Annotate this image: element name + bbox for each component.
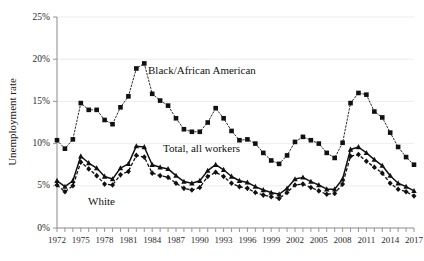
data-point bbox=[213, 162, 218, 167]
data-point bbox=[404, 189, 409, 195]
data-point bbox=[126, 94, 131, 99]
data-point bbox=[78, 153, 83, 158]
data-point bbox=[412, 162, 417, 167]
data-point bbox=[372, 109, 377, 114]
x-axis-tick-label: 2011 bbox=[358, 235, 376, 245]
data-point bbox=[388, 180, 393, 186]
data-point bbox=[63, 146, 68, 151]
data-point bbox=[317, 141, 322, 146]
data-point bbox=[142, 61, 147, 66]
y-axis-tick-label: 0% bbox=[37, 223, 50, 233]
y-axis-ticks bbox=[53, 17, 57, 228]
data-point bbox=[301, 135, 306, 140]
data-point bbox=[396, 186, 401, 192]
data-point bbox=[221, 116, 226, 121]
y-axis-tick-label: 20% bbox=[33, 54, 51, 64]
data-point bbox=[174, 116, 179, 121]
data-point bbox=[324, 151, 329, 156]
data-point bbox=[213, 106, 218, 111]
x-axis-tick-label: 1996 bbox=[238, 235, 257, 245]
x-axis-tick-label: 2005 bbox=[310, 235, 329, 245]
data-point bbox=[245, 137, 250, 142]
data-point bbox=[261, 151, 266, 156]
x-axis-tick-label: 1999 bbox=[262, 235, 281, 245]
data-point bbox=[189, 187, 194, 193]
data-point bbox=[86, 108, 91, 113]
data-point bbox=[150, 170, 155, 176]
data-point bbox=[253, 141, 258, 146]
data-point bbox=[182, 127, 187, 132]
x-axis-tick-label: 2017 bbox=[405, 235, 424, 245]
data-point bbox=[94, 173, 99, 179]
data-point bbox=[285, 153, 290, 158]
data-point bbox=[269, 194, 274, 200]
data-point bbox=[332, 156, 337, 161]
data-point bbox=[380, 115, 385, 120]
data-point bbox=[412, 193, 417, 199]
data-point bbox=[213, 170, 218, 176]
gridlines bbox=[57, 17, 414, 186]
data-point bbox=[118, 105, 123, 110]
x-axis-tick-label: 1984 bbox=[143, 235, 162, 245]
data-point bbox=[229, 129, 234, 134]
data-point bbox=[71, 137, 76, 142]
data-point bbox=[388, 130, 393, 135]
x-axis-tick-label: 1981 bbox=[119, 235, 137, 245]
data-point bbox=[356, 91, 361, 96]
data-point bbox=[261, 192, 266, 198]
data-point bbox=[237, 184, 242, 190]
series-line bbox=[57, 155, 414, 199]
x-axis-tick-label: 1993 bbox=[215, 235, 234, 245]
data-point bbox=[316, 188, 321, 194]
series-white bbox=[55, 152, 417, 201]
y-axis-tick-label: 5% bbox=[37, 180, 50, 190]
data-point bbox=[309, 138, 314, 143]
y-axis-tick-label: 10% bbox=[33, 138, 51, 148]
data-point bbox=[134, 66, 139, 71]
data-point bbox=[245, 186, 250, 192]
x-axis-tick-label: 1978 bbox=[96, 235, 115, 245]
data-point bbox=[253, 190, 258, 196]
series-annotation-label: White bbox=[88, 195, 115, 207]
data-point bbox=[181, 186, 186, 192]
data-point bbox=[158, 98, 163, 103]
data-point bbox=[102, 118, 107, 123]
y-axis-tick-labels: 0%5%10%15%20%25% bbox=[33, 12, 51, 233]
data-point bbox=[126, 161, 131, 166]
data-point bbox=[205, 174, 210, 180]
data-point bbox=[340, 176, 345, 181]
data-point bbox=[55, 138, 60, 143]
data-point bbox=[86, 166, 91, 172]
y-axis-tick-label: 15% bbox=[33, 96, 51, 106]
data-point bbox=[110, 122, 115, 127]
data-point bbox=[332, 191, 337, 197]
series-layer bbox=[54, 61, 416, 201]
series-annotation-label: Total, all workers bbox=[163, 142, 240, 154]
data-point bbox=[404, 155, 409, 160]
data-point bbox=[190, 129, 195, 134]
data-point bbox=[150, 92, 155, 97]
data-point bbox=[126, 169, 131, 175]
x-axis-tick-label: 1990 bbox=[191, 235, 210, 245]
x-axis-tick-label: 1987 bbox=[167, 235, 186, 245]
x-axis-ticks bbox=[57, 228, 414, 232]
data-point bbox=[324, 191, 329, 197]
data-point bbox=[293, 140, 298, 145]
data-point bbox=[229, 180, 234, 186]
x-axis-tick-label: 1975 bbox=[72, 235, 91, 245]
data-point bbox=[198, 129, 203, 134]
data-point bbox=[79, 101, 84, 106]
x-axis-tick-label: 2002 bbox=[286, 235, 304, 245]
y-axis-title: Unemployment rate bbox=[6, 78, 18, 166]
series-annotation-label: Black/African American bbox=[148, 64, 256, 76]
data-point bbox=[356, 144, 361, 149]
data-point bbox=[166, 103, 171, 108]
data-point bbox=[142, 154, 147, 160]
data-point bbox=[205, 120, 210, 125]
data-point bbox=[150, 162, 155, 167]
chart-canvas: 0%5%10%15%20%25% 19721975197819811984198… bbox=[0, 0, 424, 261]
data-point bbox=[348, 101, 353, 106]
data-point bbox=[340, 140, 345, 145]
y-axis-tick-label: 25% bbox=[33, 12, 51, 22]
data-point bbox=[158, 173, 163, 179]
